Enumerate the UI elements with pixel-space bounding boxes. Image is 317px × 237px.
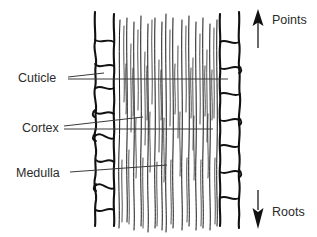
label-points: Points xyxy=(272,13,307,27)
hair-structure-diagram: Cuticle Cortex Medulla Points Roots xyxy=(0,0,317,237)
cuticle-right-wall xyxy=(220,12,242,228)
cuticle-left-wall xyxy=(93,12,115,226)
label-roots: Roots xyxy=(272,205,305,219)
label-medulla: Medulla xyxy=(16,166,60,180)
diagram-canvas: Cuticle Cortex Medulla Points Roots xyxy=(0,0,317,237)
leader-cuticle-left xyxy=(68,73,104,77)
label-cuticle: Cuticle xyxy=(18,71,56,85)
direction-marker-points: Points xyxy=(253,9,307,48)
cortex-fiber-field xyxy=(119,14,218,232)
direction-marker-roots: Roots xyxy=(253,190,305,229)
label-cortex: Cortex xyxy=(22,121,60,135)
arrow-down-icon xyxy=(253,208,264,229)
